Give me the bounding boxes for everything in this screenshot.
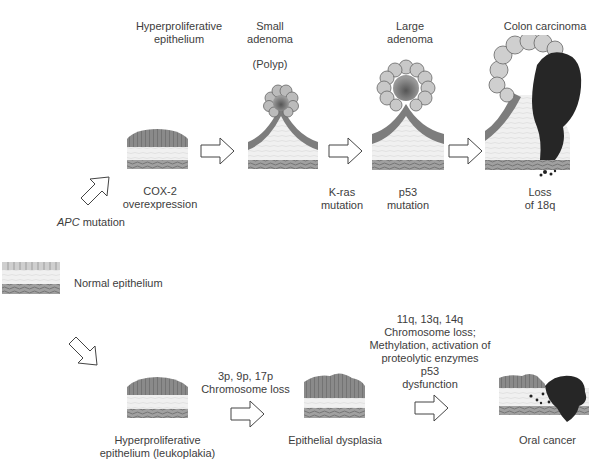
diagonal-up-arrow-icon [78, 176, 112, 208]
hyperproliferative-epithelium-illustration [125, 125, 190, 173]
title-line: Small [230, 20, 310, 33]
transition-chromosome-loss-11q-13q-14q: 11q, 13q, 14q Chromosome loss; Methylati… [365, 313, 495, 391]
event-cox2-overexpression: COX-2 overexpression [115, 185, 205, 211]
event-suffix: mutation [80, 216, 125, 228]
oral-cancer-illustration [497, 370, 593, 425]
title-line: Large [370, 20, 450, 33]
title-line: adenoma [230, 33, 310, 46]
transition-line: Chromosome loss; [365, 326, 495, 339]
event-line: overexpression [115, 198, 205, 211]
event-loss-of-18q: Loss of 18q [510, 186, 570, 212]
title-line: epithelium [114, 33, 244, 46]
leukoplakia-illustration [125, 375, 190, 421]
right-arrow-icon [328, 137, 364, 165]
small-adenoma-illustration [248, 78, 318, 173]
gene-name: APC [57, 216, 80, 228]
transition-line: proteolytic enzymes [365, 352, 495, 365]
transition-line: 11q, 13q, 14q [365, 313, 495, 326]
event-apc-mutation: APC mutation [57, 216, 125, 229]
event-p53-mutation: p53 mutation [382, 186, 434, 212]
colon-carcinoma-illustration [485, 35, 585, 180]
event-line: mutation [382, 199, 434, 212]
stage-title-hyperproliferative: Hyperproliferative epithelium [114, 20, 244, 46]
transition-line: dysfunction [365, 378, 495, 391]
diagonal-down-arrow-icon [66, 334, 100, 366]
epithelial-dysplasia-illustration [302, 370, 367, 422]
event-line: K-ras [316, 186, 368, 199]
stage-title-large-adenoma: Large adenoma [370, 20, 450, 46]
normal-epithelium-illustration [2, 262, 60, 295]
stage-label-leukoplakia: Hyperproliferative epithelium (leukoplak… [95, 434, 220, 460]
right-arrow-icon [200, 137, 236, 165]
event-line: Loss [510, 186, 570, 199]
transition-line: 3p, 9p, 17p [198, 370, 293, 383]
event-line: of 18q [510, 199, 570, 212]
event-line: mutation [316, 199, 368, 212]
title-line: adenoma [370, 33, 450, 46]
label-line: epithelium (leukoplakia) [95, 447, 220, 460]
event-line: COX-2 [115, 185, 205, 198]
event-line: p53 [382, 186, 434, 199]
normal-epithelium-label: Normal epithelium [74, 277, 163, 290]
stage-subtitle-polyp: (Polyp) [230, 58, 310, 71]
right-arrow-icon [448, 137, 484, 165]
right-arrow-icon [414, 394, 450, 422]
stage-title-small-adenoma: Small adenoma [230, 20, 310, 46]
event-k-ras-mutation: K-ras mutation [316, 186, 368, 212]
right-arrow-icon [230, 400, 266, 428]
stage-label-epithelial-dysplasia: Epithelial dysplasia [280, 434, 390, 447]
transition-line: Chromosome loss [198, 383, 293, 396]
transition-chromosome-loss-3p-9p-17p: 3p, 9p, 17p Chromosome loss [198, 370, 293, 396]
transition-line: p53 [365, 365, 495, 378]
large-adenoma-illustration [372, 58, 444, 173]
transition-line: Methylation, activation of [365, 339, 495, 352]
stage-title-colon-carcinoma: Colon carcinoma [490, 20, 600, 33]
stage-label-oral-cancer: Oral cancer [510, 434, 585, 447]
label-line: Hyperproliferative [95, 434, 220, 447]
title-line: Hyperproliferative [114, 20, 244, 33]
